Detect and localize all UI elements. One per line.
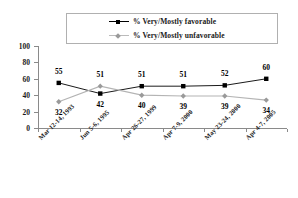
data-point-marker [181,84,185,88]
legend-marker-unfavorable-icon [109,35,129,36]
y-axis-tick-label: 20 [8,107,30,116]
y-axis-tick [34,112,38,113]
data-point-label: 55 [55,67,63,76]
legend-label-favorable: % Very/Mostly favorable [133,17,216,26]
data-point-label: 42 [97,100,105,109]
x-axis-tick [204,129,205,132]
data-point-label: 51 [138,70,146,79]
data-point-marker [57,81,61,85]
y-axis-tick [34,46,38,47]
y-axis-tick-label: 60 [8,74,30,83]
x-axis-tick [38,129,39,132]
y-axis-tick [34,79,38,80]
data-point-marker [222,93,227,98]
data-point-marker [98,91,102,95]
data-point-marker [264,97,269,102]
data-point-marker [264,77,268,81]
x-axis-label: Apr 7-9, 2000 [161,108,194,141]
x-axis-tick [80,129,81,132]
x-axis-label: Apr 4-7, 2005 [244,108,277,141]
legend-item-favorable: % Very/Mostly favorable [109,17,216,26]
data-point-marker [223,83,227,87]
data-point-marker [140,84,144,88]
y-axis-tick [34,62,38,63]
data-point-label: 60 [263,63,271,72]
data-point-marker [139,93,144,98]
y-axis-tick-label: 100 [8,42,30,51]
data-point-label: 51 [97,70,105,79]
legend-item-unfavorable: % Very/Mostly unfavorable [109,31,225,40]
legend-label-unfavorable: % Very/Mostly unfavorable [133,31,225,40]
x-axis-tick [287,129,288,132]
chart-legend: % Very/Mostly favorable % Very/Mostly un… [66,13,278,44]
y-axis-tick [34,95,38,96]
y-axis-tick-label: 40 [8,91,30,100]
legend-marker-favorable-icon [109,21,129,22]
series-line-unfavorable [59,86,267,102]
series-line-favorable [59,79,267,94]
data-point-label: 40 [138,101,146,110]
data-point-label: 52 [221,69,229,78]
y-axis-tick-label: 0 [8,124,30,133]
data-point-marker [98,83,103,88]
x-axis-label: Jun 5-6, 1995 [78,109,110,141]
x-axis-tick [163,129,164,132]
data-point-label: 51 [180,70,188,79]
x-axis-tick [121,129,122,132]
x-axis-tick [246,129,247,132]
y-axis-line [38,46,39,129]
y-axis-tick-label: 80 [8,58,30,67]
data-point-marker [56,99,61,104]
data-point-marker [181,93,186,98]
chart-container: % Very/Mostly favorable % Very/Mostly un… [0,0,298,198]
